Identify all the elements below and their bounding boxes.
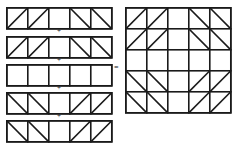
equals-operator: =	[114, 64, 119, 72]
grid-cell	[189, 50, 210, 71]
result-grid	[125, 7, 232, 114]
grid-cell	[49, 8, 70, 29]
grid-cell	[168, 50, 189, 71]
plus-operator-3: +	[0, 85, 118, 92]
strips-column: + + + +	[0, 0, 118, 146]
grid-cell	[49, 65, 70, 86]
grid-cell	[168, 92, 189, 113]
grid-cell	[168, 29, 189, 50]
grid-cell	[168, 8, 189, 29]
grid-cell	[70, 65, 91, 86]
plus-operator-1: +	[0, 28, 118, 35]
diagram-root: + + + + =	[0, 0, 239, 146]
strip-5-svg	[6, 120, 113, 143]
plus-operator-2: +	[0, 57, 118, 64]
grid-cell	[49, 121, 70, 142]
grid-cell	[147, 50, 168, 71]
grid-cell	[49, 93, 70, 114]
grid-cell	[210, 50, 231, 71]
grid-cell	[28, 65, 49, 86]
strip-5	[6, 120, 113, 143]
grid-cell	[49, 37, 70, 58]
result-grid-svg	[125, 7, 232, 114]
plus-operator-4: +	[0, 113, 118, 120]
grid-cell	[126, 50, 147, 71]
grid-cell	[168, 71, 189, 92]
grid-cell	[91, 65, 112, 86]
grid-cell	[7, 65, 28, 86]
